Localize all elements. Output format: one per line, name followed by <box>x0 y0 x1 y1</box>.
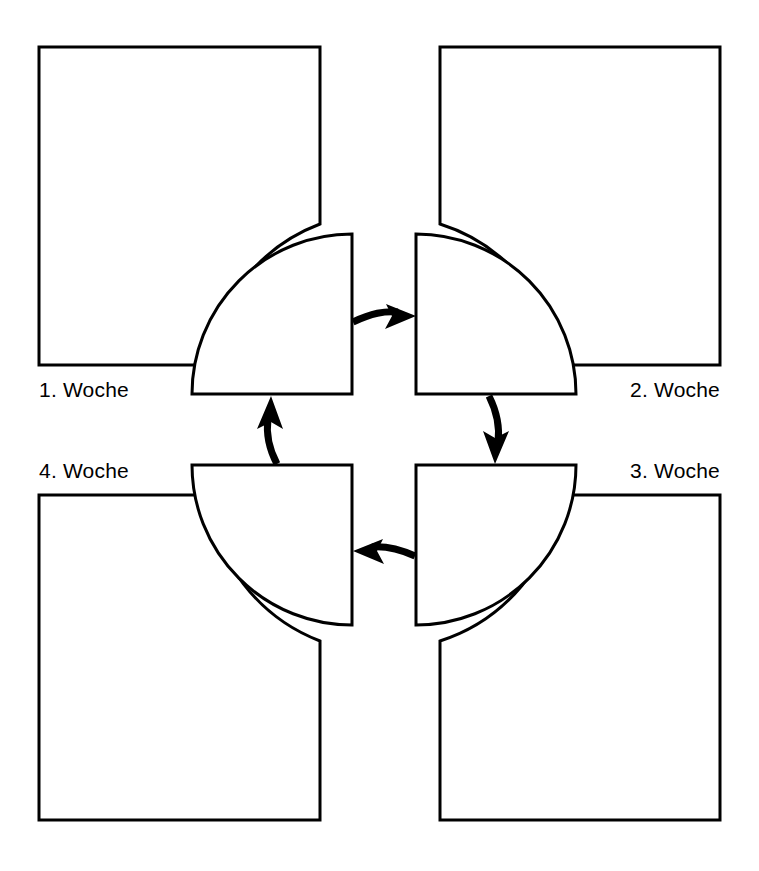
diagram-canvas: 1. Woche 2. Woche 3. Woche 4. Woche <box>0 0 759 871</box>
arrow-week4-to-week1 <box>257 396 283 464</box>
arrow-week2-to-week3 <box>483 396 509 464</box>
arrow-week3-to-week4 <box>353 539 415 564</box>
week2-label: 2. Woche <box>630 378 720 401</box>
arrow-3-to-4-head <box>353 539 384 564</box>
arrow-week1-to-week2 <box>353 304 416 329</box>
week4-label: 4. Woche <box>39 459 129 482</box>
week1-label: 1. Woche <box>39 378 129 401</box>
arrow-1-to-2-head <box>385 304 416 329</box>
week3-label: 3. Woche <box>630 459 720 482</box>
arrow-4-to-1-shaft <box>267 418 277 464</box>
cycle-diagram: 1. Woche 2. Woche 3. Woche 4. Woche <box>0 0 759 871</box>
